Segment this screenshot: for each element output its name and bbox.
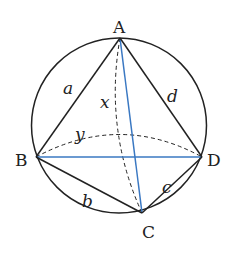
label-diagonal-y: y	[74, 124, 85, 144]
label-side-a: a	[63, 78, 73, 98]
label-side-d: d	[167, 86, 178, 106]
side-cd	[142, 157, 202, 213]
label-side-c: c	[162, 177, 172, 197]
label-point-b: B	[15, 150, 28, 170]
label-side-b: b	[82, 191, 93, 211]
label-point-c: C	[142, 222, 155, 242]
label-diagonal-x: x	[100, 92, 110, 112]
label-point-d: D	[207, 150, 221, 170]
label-point-a: A	[112, 17, 126, 37]
cyclic-quadrilateral-diagram: A B C D a b c d x y	[0, 0, 241, 254]
